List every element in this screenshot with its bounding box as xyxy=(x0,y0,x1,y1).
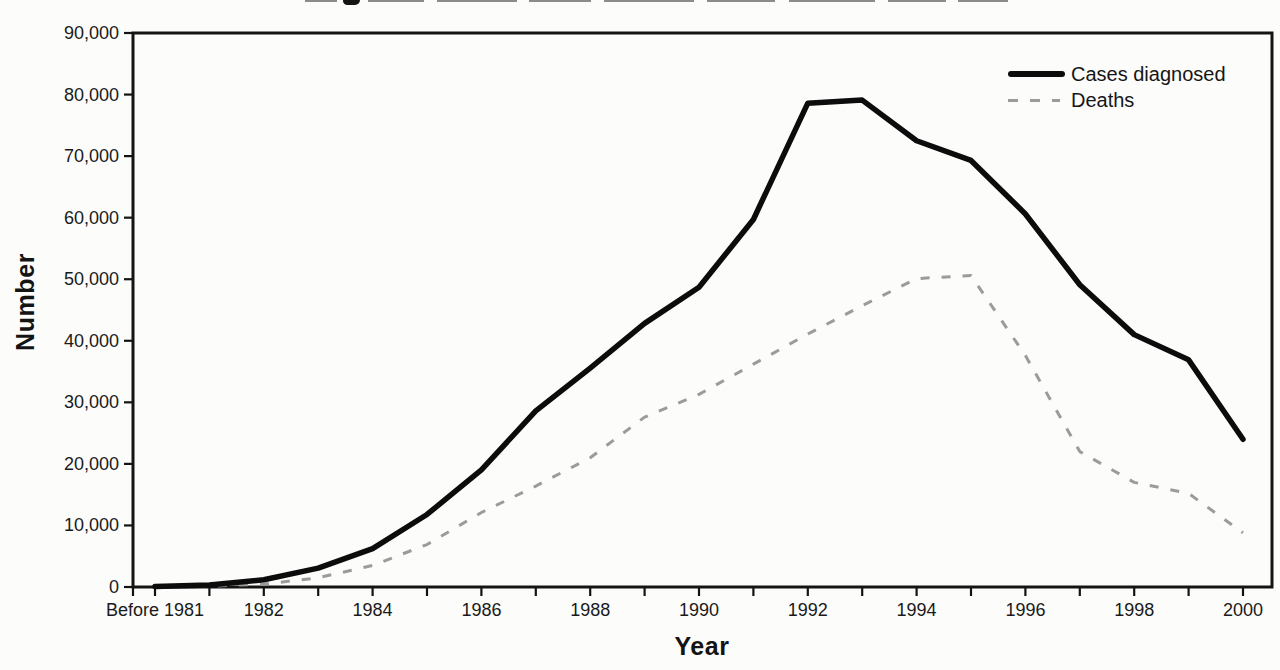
x-axis-tick-label: 2000 xyxy=(1223,600,1263,620)
x-axis-tick-label: 1988 xyxy=(570,600,610,620)
y-axis-tick-label: 70,000 xyxy=(64,146,119,166)
deaths-line-swatch xyxy=(1008,99,1060,102)
y-axis-tick-label: 10,000 xyxy=(64,515,119,535)
x-axis-tick-label: 1982 xyxy=(244,600,284,620)
legend-label-cases: Cases diagnosed xyxy=(1071,63,1226,86)
x-axis-tick-label: 1990 xyxy=(679,600,719,620)
cases-diagnosed-line xyxy=(155,100,1243,586)
y-axis-title: Number xyxy=(8,242,42,362)
y-axis-tick-label: 40,000 xyxy=(64,331,119,351)
y-axis-tick-label: 80,000 xyxy=(64,85,119,105)
y-axis-tick-label: 90,000 xyxy=(64,23,119,43)
x-axis-tick-label: 1994 xyxy=(897,600,937,620)
x-axis-tick-label: 1984 xyxy=(353,600,393,620)
y-axis-tick-label: 0 xyxy=(109,577,119,597)
x-axis-title: Year xyxy=(572,632,832,661)
x-axis-tick-label: 1986 xyxy=(461,600,501,620)
x-axis-tick-label: 1996 xyxy=(1005,600,1045,620)
legend: Cases diagnosed Deaths xyxy=(1008,61,1226,113)
deaths-line xyxy=(155,276,1243,587)
x-axis-tick-label: Before 1981 xyxy=(106,600,204,620)
legend-label-deaths: Deaths xyxy=(1071,89,1134,112)
cases-line-swatch xyxy=(1008,71,1065,77)
plot-border xyxy=(133,33,1272,587)
aids-cases-deaths-chart: 010,00020,00030,00040,00050,00060,00070,… xyxy=(0,0,1280,670)
legend-item-cases: Cases diagnosed xyxy=(1008,61,1226,87)
y-axis-tick-label: 30,000 xyxy=(64,392,119,412)
y-axis-tick-label: 60,000 xyxy=(64,208,119,228)
y-axis-tick-label: 50,000 xyxy=(64,269,119,289)
y-axis-tick-label: 20,000 xyxy=(64,454,119,474)
x-axis-tick-label: 1992 xyxy=(788,600,828,620)
x-axis-tick-label: 1998 xyxy=(1114,600,1154,620)
legend-item-deaths: Deaths xyxy=(1008,87,1226,113)
